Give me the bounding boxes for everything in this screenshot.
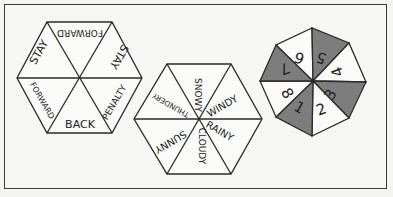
spinners-canvas: FORWARD STAY PENALTY BACK FORWARD STAY S… (0, 0, 393, 197)
number-spinner (260, 28, 366, 136)
movement-section-bottom: BACK (65, 118, 96, 131)
weather-section-top: SNOWY (193, 78, 203, 112)
weather-section-bottom: CLOUDY (197, 128, 207, 165)
movement-section-top: FORWARD (57, 28, 103, 38)
